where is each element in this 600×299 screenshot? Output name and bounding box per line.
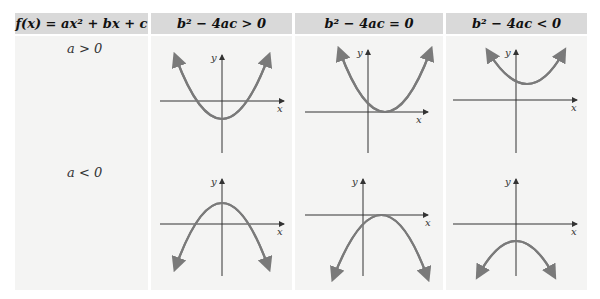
- y-axis-label: y: [210, 52, 217, 63]
- graph-a-pos-disc-zero: y x: [305, 47, 430, 153]
- svg-text:x: x: [416, 114, 422, 125]
- svg-text:y: y: [504, 176, 511, 187]
- svg-text:y: y: [504, 47, 511, 58]
- svg-text:y: y: [210, 176, 217, 187]
- svg-text:x: x: [571, 102, 577, 113]
- parabola-graphs: y x y x y x y x y x: [0, 0, 600, 299]
- graph-a-pos-disc-pos: y x: [160, 52, 284, 153]
- graph-a-neg-disc-pos: y x: [160, 176, 284, 276]
- svg-text:x: x: [571, 226, 577, 237]
- svg-text:y: y: [351, 176, 358, 187]
- svg-text:x: x: [425, 217, 431, 228]
- graph-a-neg-disc-neg: y x: [453, 176, 577, 276]
- svg-text:x: x: [277, 226, 283, 237]
- svg-text:y: y: [356, 47, 363, 58]
- x-axis-label: x: [277, 103, 283, 114]
- graph-a-pos-disc-neg: y x: [453, 47, 577, 153]
- graph-a-neg-disc-zero: y x: [305, 176, 431, 276]
